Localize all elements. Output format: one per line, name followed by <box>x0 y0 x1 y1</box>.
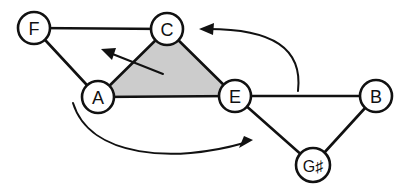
node-a[interactable]: A <box>82 81 114 113</box>
straight-arrow-into-triangle-head <box>101 48 116 60</box>
node-e[interactable]: E <box>219 80 251 112</box>
node-b[interactable]: B <box>360 80 392 112</box>
node-e-label: E <box>229 87 241 107</box>
node-gsharp[interactable]: G♯ <box>296 148 330 182</box>
curved-arrow-upper-head <box>199 23 214 35</box>
node-a-label: A <box>92 88 104 108</box>
curved-arrow-lower-head <box>239 136 253 148</box>
node-c-label: C <box>161 20 174 40</box>
graph-figure: F C A E B G♯ <box>0 0 410 190</box>
node-f[interactable]: F <box>18 12 50 44</box>
node-b-label: B <box>370 87 382 107</box>
node-gsharp-label: G♯ <box>303 158 323 175</box>
node-f-label: F <box>29 19 40 39</box>
node-c[interactable]: C <box>151 13 183 45</box>
graph-canvas: F C A E B G♯ <box>0 0 410 190</box>
edge-f-c <box>34 28 167 29</box>
edge-a-e <box>98 96 235 97</box>
